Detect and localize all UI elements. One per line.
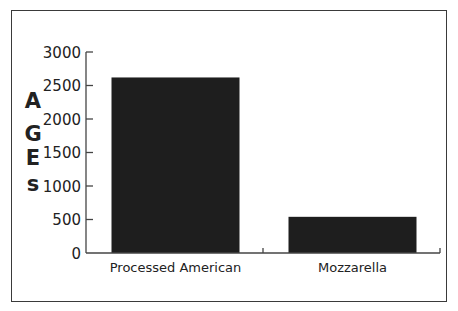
y-tick-label: 1000	[43, 178, 81, 196]
y-tick-label: 3000	[43, 44, 81, 62]
y-axis: 050010001500200025003000	[43, 44, 93, 263]
y-tick-label: 0	[71, 245, 81, 263]
y-label-letter: E	[26, 146, 40, 170]
x-category-label: Mozzarella	[318, 260, 387, 275]
bar	[289, 217, 417, 253]
y-tick-label: 2500	[43, 77, 81, 95]
y-label-letter: G	[24, 122, 41, 146]
y-tick-label: 2000	[43, 111, 81, 129]
y-tick-label: 1500	[43, 144, 81, 162]
x-category-label: Processed American	[110, 260, 242, 275]
bar	[112, 77, 240, 253]
y-tick-label: 500	[52, 211, 81, 229]
y-label-letter: A	[25, 89, 42, 113]
bar-chart: 050010001500200025003000 AGEs Processed …	[0, 0, 458, 311]
y-label-letter: s	[27, 172, 40, 196]
y-axis-label: AGEs	[24, 89, 41, 196]
bars	[112, 77, 417, 253]
